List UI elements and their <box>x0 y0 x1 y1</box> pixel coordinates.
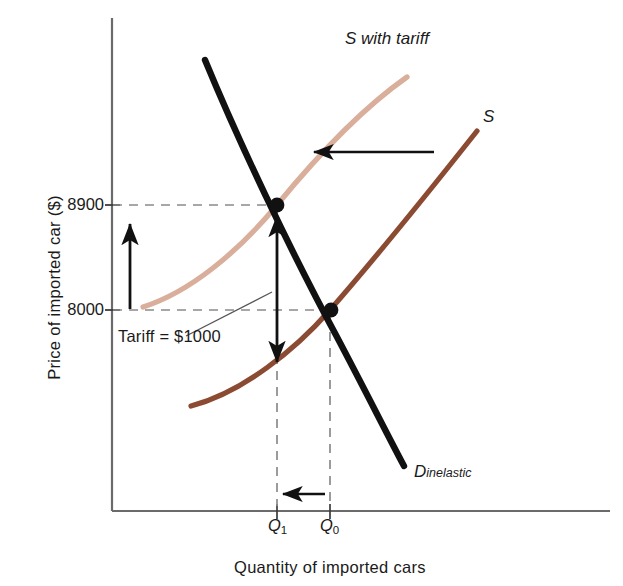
demand-curve <box>205 60 404 466</box>
x-tick-label-q1-base: Q <box>268 516 281 534</box>
equilibrium-point-pre-tariff <box>324 303 339 318</box>
y-axis-title: Price of imported car ($) <box>45 138 64 438</box>
x-axis-title: Quantity of imported cars <box>234 558 426 577</box>
x-tick-label-q0-sub: 0 <box>333 524 339 536</box>
supply-with-tariff-curve <box>143 77 407 307</box>
demand-label-sub: inelastic <box>426 466 471 480</box>
tariff-supply-demand-figure: Price of imported car ($) Quantity of im… <box>0 0 623 586</box>
chart-canvas <box>0 0 623 586</box>
y-tick-label-8900: 8900 <box>34 195 104 214</box>
x-tick-label-q1-sub: 1 <box>281 524 287 536</box>
equilibrium-point-post-tariff <box>270 198 285 213</box>
demand-label-base: D <box>414 462 426 481</box>
tariff-amount-label: Tariff = $1000 <box>118 327 221 346</box>
x-tick-label-q0-base: Q <box>320 516 333 534</box>
y-tick-label-8000: 8000 <box>34 300 104 319</box>
supply-curve <box>191 131 477 406</box>
x-tick-label-q0: Q0 <box>320 516 339 536</box>
supply-label: S <box>483 107 494 127</box>
guide-lines <box>113 205 336 506</box>
axis-lines <box>112 18 610 511</box>
supply-with-tariff-label: S with tariff <box>345 29 429 49</box>
x-tick-label-q1: Q1 <box>268 516 287 536</box>
demand-label: Dinelastic <box>414 462 471 482</box>
